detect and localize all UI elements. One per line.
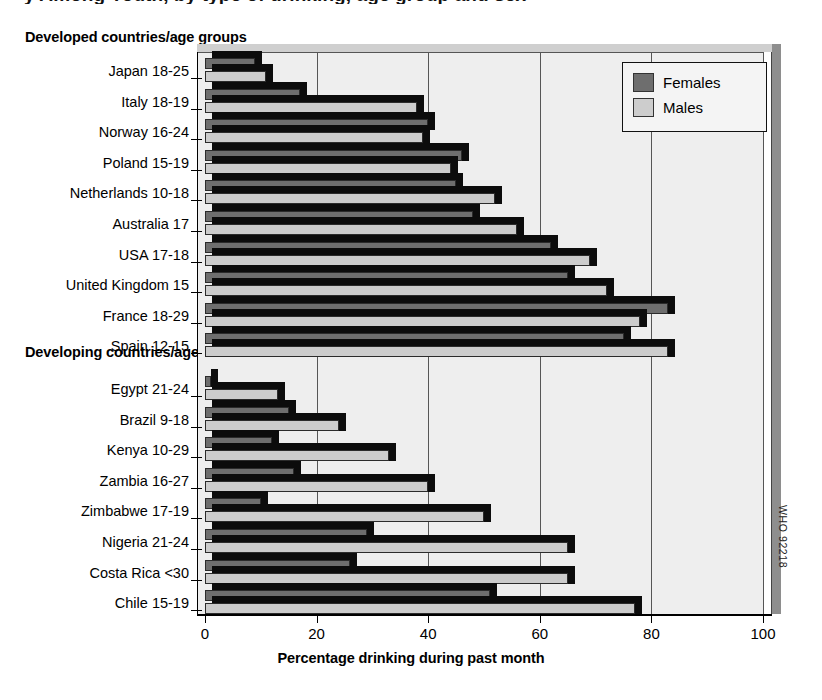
- x-axis: 020406080100: [197, 614, 781, 654]
- y-axis-label: Nigeria 21-24: [0, 535, 189, 549]
- bar-males: [205, 389, 278, 400]
- y-tick: [191, 353, 202, 354]
- y-axis-label: Spain 12-15: [0, 339, 189, 353]
- x-tick: [205, 614, 206, 623]
- y-axis-label: Norway 16-24: [0, 125, 189, 139]
- legend: Females Males: [622, 62, 767, 132]
- group-heading-developed: Developed countries/age groups: [25, 29, 247, 45]
- y-axis-labels: Japan 18-25Italy 18-19Norway 16-24Poland…: [0, 44, 193, 614]
- bar-males: [205, 285, 607, 296]
- y-axis-label: United Kingdom 15: [0, 278, 189, 292]
- y-tick: [191, 549, 202, 550]
- gridline: [651, 52, 652, 614]
- y-tick: [191, 78, 202, 79]
- y-axis-label: Zambia 16-27: [0, 474, 189, 488]
- x-tick-label: 80: [621, 625, 681, 642]
- y-tick: [191, 170, 202, 171]
- y-axis-label: Japan 18-25: [0, 64, 189, 78]
- y-tick: [191, 396, 202, 397]
- y-tick: [191, 457, 202, 458]
- bar-males: [205, 542, 568, 553]
- y-axis-label: France 18-29: [0, 309, 189, 323]
- y-axis-label: USA 17-18: [0, 248, 189, 262]
- y-tick: [191, 427, 202, 428]
- bar-males: [205, 420, 339, 431]
- y-tick: [191, 323, 202, 324]
- legend-swatch-females: [633, 73, 654, 92]
- bar-males: [205, 255, 590, 266]
- bar-males: [205, 316, 640, 327]
- y-axis-label: Poland 15-19: [0, 156, 189, 170]
- legend-swatch-males: [633, 98, 654, 117]
- y-tick: [191, 139, 202, 140]
- chart-figure: y Among Youth, by type of drinking, age …: [0, 0, 822, 700]
- legend-label-males: Males: [663, 99, 703, 116]
- x-tick: [540, 614, 541, 623]
- y-tick: [191, 262, 202, 263]
- y-tick: [191, 488, 202, 489]
- bar-males: [205, 71, 266, 82]
- y-axis-label: Italy 18-19: [0, 95, 189, 109]
- y-axis-label: Costa Rica <30: [0, 566, 189, 580]
- bar-females: [205, 376, 211, 387]
- y-axis-label: Zimbabwe 17-19: [0, 504, 189, 518]
- y-tick: [191, 109, 202, 110]
- bar-males: [205, 481, 428, 492]
- bar-males: [205, 102, 417, 113]
- bar-males: [205, 193, 495, 204]
- x-tick: [428, 614, 429, 623]
- bar-males: [205, 511, 484, 522]
- x-tick: [763, 614, 764, 623]
- source-code-label: WHO 92218: [777, 505, 789, 568]
- y-tick: [191, 580, 202, 581]
- y-axis-label: Egypt 21-24: [0, 382, 189, 396]
- legend-label-females: Females: [663, 74, 721, 91]
- y-tick: [191, 292, 202, 293]
- legend-item-females: Females: [633, 70, 766, 95]
- y-axis-label: Netherlands 10-18: [0, 186, 189, 200]
- x-tick-label: 100: [733, 625, 793, 642]
- y-axis-label: Brazil 9-18: [0, 413, 189, 427]
- bar-males: [205, 450, 389, 461]
- x-axis-title: Percentage drinking during past month: [0, 650, 822, 666]
- x-tick-label: 40: [398, 625, 458, 642]
- y-tick: [191, 200, 202, 201]
- x-tick: [317, 614, 318, 623]
- bar-males: [205, 132, 423, 143]
- gridline: [763, 52, 764, 614]
- bar-males: [205, 163, 451, 174]
- legend-item-males: Males: [633, 95, 766, 120]
- x-tick-label: 20: [287, 625, 347, 642]
- plot-top-face: [197, 44, 772, 52]
- bar-males: [205, 573, 568, 584]
- y-axis-label: Australia 17: [0, 217, 189, 231]
- y-tick: [191, 231, 202, 232]
- bar-males: [205, 603, 635, 614]
- figure-title-clipped: y Among Youth, by type of drinking, age …: [24, 0, 724, 4]
- y-axis-line: [197, 52, 198, 614]
- y-axis-label: Chile 15-19: [0, 596, 189, 610]
- y-tick: [191, 610, 202, 611]
- bar-males: [205, 224, 517, 235]
- x-tick: [651, 614, 652, 623]
- y-tick: [191, 518, 202, 519]
- bar-males: [205, 346, 668, 357]
- y-axis-label: Kenya 10-29: [0, 443, 189, 457]
- x-tick-label: 0: [175, 625, 235, 642]
- x-tick-label: 60: [510, 625, 570, 642]
